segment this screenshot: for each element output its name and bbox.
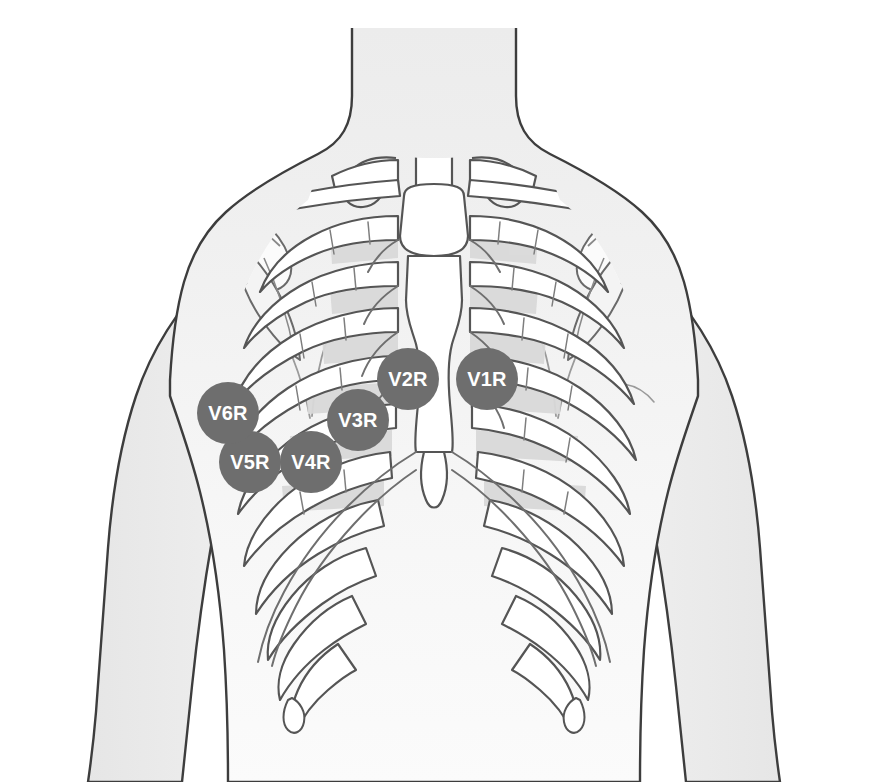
- electrode-v6r-label: V6R: [208, 403, 248, 423]
- electrode-v2r[interactable]: V2R: [377, 348, 439, 410]
- electrode-v3r[interactable]: V3R: [327, 389, 389, 451]
- electrode-v4r[interactable]: V4R: [280, 431, 342, 493]
- electrode-v6r[interactable]: V6R: [197, 382, 259, 444]
- electrode-v1r-label: V1R: [467, 369, 507, 389]
- electrode-v4r-label: V4R: [291, 452, 331, 472]
- electrode-v3r-label: V3R: [338, 410, 378, 430]
- manubrium: [400, 184, 468, 256]
- electrode-v5r-label: V5R: [230, 452, 270, 472]
- electrode-v2r-label: V2R: [388, 369, 428, 389]
- ecg-lead-placement-diagram: V1R V2R V3R V4R V5R V6R: [0, 0, 869, 782]
- electrode-v1r[interactable]: V1R: [456, 348, 518, 410]
- xiphoid-process: [421, 452, 447, 508]
